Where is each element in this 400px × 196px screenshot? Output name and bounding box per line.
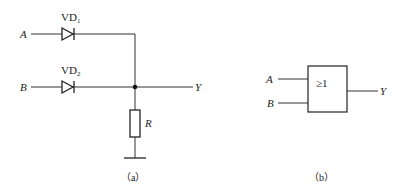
input-b-label: B bbox=[20, 81, 27, 93]
diode-vd1-icon bbox=[62, 28, 74, 40]
input-a-label: A bbox=[19, 28, 27, 40]
or-gate-box-icon bbox=[308, 66, 347, 112]
junction-dot-icon bbox=[133, 85, 138, 90]
gate-output-y-label: Y bbox=[380, 85, 388, 97]
gate-input-a-label: A bbox=[265, 73, 273, 85]
diode-vd2-icon bbox=[62, 81, 74, 93]
figure-b-or-gate-symbol: A B ≥1 Y （b） bbox=[265, 66, 388, 183]
diode-vd2-label: VD2 bbox=[61, 64, 81, 78]
figure-b-caption: （b） bbox=[309, 172, 334, 183]
diagram-canvas: A VD1 B VD2 Y R （a） A B ≥1 bbox=[0, 0, 400, 196]
diode-vd1-label: VD1 bbox=[61, 11, 81, 25]
resistor-label: R bbox=[144, 117, 152, 129]
gate-input-b-label: B bbox=[267, 97, 274, 109]
resistor-icon bbox=[130, 110, 140, 137]
or-gate-symbol: ≥1 bbox=[316, 77, 328, 89]
output-y-label: Y bbox=[195, 81, 203, 93]
figure-a-caption: （a） bbox=[121, 172, 145, 183]
figure-a-diode-or-circuit: A VD1 B VD2 Y R （a） bbox=[19, 11, 203, 183]
